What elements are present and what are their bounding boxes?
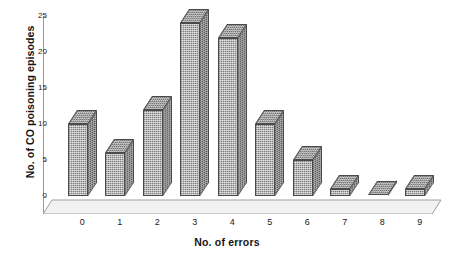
- bar-side-face: [88, 110, 97, 196]
- bar: [218, 38, 238, 196]
- bar: [368, 195, 388, 196]
- x-axis-tick-label: 5: [267, 218, 272, 227]
- x-axis-tick-label: 1: [117, 218, 122, 227]
- bar-front-face: [293, 160, 313, 196]
- y-axis-tick-label: 15: [13, 84, 47, 92]
- bar-front-face: [68, 124, 88, 196]
- y-axis-tick-label: 10: [13, 120, 47, 128]
- bars-layer: [43, 12, 441, 214]
- bar-front-face: [105, 153, 125, 196]
- y-axis-title: No. of CO poisoning episodes: [24, 0, 36, 212]
- bar-chart: No. of CO poisoning episodes 0510152025 …: [0, 0, 454, 260]
- x-axis-tick-label: 3: [192, 218, 197, 227]
- bar: [405, 189, 425, 196]
- bar: [293, 160, 313, 196]
- bar: [105, 153, 125, 196]
- bar-side-face: [238, 24, 247, 196]
- bar-side-face: [275, 110, 284, 196]
- x-axis-tick-label: 7: [342, 218, 347, 227]
- x-axis-tick-label: 4: [230, 218, 235, 227]
- x-axis-tick-label: 9: [417, 218, 422, 227]
- bar: [330, 189, 350, 196]
- bar-front-face: [405, 189, 425, 196]
- bar-side-face: [163, 96, 172, 196]
- y-axis-tick-label: 0: [13, 192, 47, 200]
- bar: [255, 124, 275, 196]
- bar: [143, 110, 163, 196]
- y-axis-tick-label: 20: [13, 48, 47, 56]
- x-axis-tick-label: 6: [305, 218, 310, 227]
- y-axis-tick-label: 5: [13, 156, 47, 164]
- bar-top-face: [368, 181, 397, 195]
- bar-front-face: [143, 110, 163, 196]
- x-axis-tick-label: 8: [380, 218, 385, 227]
- plot-area: 0510152025: [43, 12, 441, 214]
- bar-front-face: [330, 189, 350, 196]
- bar-front-face: [255, 124, 275, 196]
- y-axis-tick-label: 25: [13, 12, 47, 20]
- bar-front-face: [180, 23, 200, 196]
- x-axis-title: No. of errors: [0, 236, 454, 248]
- bar-side-face: [200, 9, 209, 196]
- x-axis-tick-label: 0: [80, 218, 85, 227]
- x-axis-tick-label: 2: [155, 218, 160, 227]
- bar: [180, 23, 200, 196]
- bar: [68, 124, 88, 196]
- bar-front-face: [218, 38, 238, 196]
